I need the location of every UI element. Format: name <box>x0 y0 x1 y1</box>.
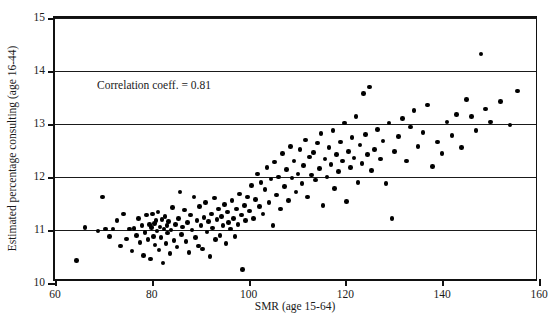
data-point <box>226 220 231 225</box>
data-point <box>474 128 479 133</box>
data-point <box>169 228 174 233</box>
data-point <box>190 228 195 233</box>
gridline-y-14 <box>55 71 536 72</box>
data-point <box>239 213 244 218</box>
data-point <box>206 219 211 224</box>
data-point <box>156 210 161 215</box>
data-point <box>216 207 221 212</box>
data-point <box>255 172 260 177</box>
data-point <box>390 216 395 221</box>
correlation-annotation: Correlation coeff. = 0.81 <box>97 78 211 92</box>
data-point <box>338 140 343 145</box>
gridline-y-12 <box>55 177 536 178</box>
y-axis-label: Estimated percentage consulting (age 16-… <box>4 16 20 281</box>
data-point <box>435 140 440 145</box>
data-point <box>317 166 322 171</box>
data-point <box>263 187 268 192</box>
data-point <box>294 190 299 195</box>
data-point <box>259 180 264 185</box>
data-point <box>271 223 276 228</box>
data-point <box>83 225 88 230</box>
data-point <box>236 222 241 227</box>
data-point <box>192 195 197 200</box>
data-point <box>372 147 377 152</box>
data-point <box>247 209 252 214</box>
data-point <box>309 173 314 178</box>
data-point <box>153 243 158 248</box>
data-point <box>286 198 291 203</box>
data-point <box>245 195 250 200</box>
y-tick-mark-13 <box>48 124 55 126</box>
data-point <box>143 230 148 235</box>
data-point <box>103 227 108 232</box>
data-point <box>168 251 173 256</box>
data-point <box>392 149 397 154</box>
data-point <box>367 85 372 90</box>
data-point <box>307 155 312 160</box>
data-point <box>200 247 205 252</box>
data-point <box>163 214 168 219</box>
data-point <box>298 147 303 152</box>
data-point <box>381 139 386 144</box>
data-point <box>222 202 227 207</box>
data-point <box>243 218 248 223</box>
data-point <box>265 165 270 170</box>
data-point <box>146 237 151 242</box>
data-point <box>498 99 503 104</box>
data-point <box>154 218 159 223</box>
data-point <box>282 184 287 189</box>
x-tick-mark-160 <box>539 279 541 286</box>
data-point <box>179 232 184 237</box>
data-point <box>234 207 239 212</box>
data-point <box>121 212 126 217</box>
data-point <box>253 197 258 202</box>
data-point <box>242 203 247 208</box>
data-point <box>187 250 192 255</box>
data-point <box>175 245 180 250</box>
data-point <box>404 159 409 164</box>
data-point <box>193 235 198 240</box>
data-point <box>327 145 332 150</box>
data-point <box>336 169 341 174</box>
data-point <box>141 253 146 258</box>
data-point <box>115 218 120 223</box>
data-point <box>205 230 210 235</box>
data-point <box>358 143 363 148</box>
data-point <box>300 181 305 186</box>
y-tick-mark-10 <box>48 283 55 285</box>
data-point <box>469 114 474 119</box>
data-point <box>107 234 112 239</box>
data-point <box>274 193 279 198</box>
data-point <box>305 195 310 200</box>
y-tick-label-14: 14 <box>34 65 46 77</box>
data-point <box>290 176 295 181</box>
data-point <box>249 183 254 188</box>
data-point <box>334 152 339 157</box>
data-point <box>218 233 223 238</box>
data-point <box>212 196 217 201</box>
y-tick-label-13: 13 <box>34 118 46 130</box>
data-point <box>165 223 170 228</box>
data-point <box>170 205 175 210</box>
data-point <box>269 177 274 182</box>
plot-area: 101112131415 6080100120140160 <box>53 16 537 281</box>
data-point <box>180 225 185 230</box>
data-point <box>459 145 464 150</box>
data-point <box>361 91 366 96</box>
data-point <box>375 127 380 132</box>
data-point <box>408 125 413 130</box>
data-point <box>301 163 306 168</box>
data-point <box>323 157 328 162</box>
data-point <box>213 237 218 242</box>
data-point <box>363 132 368 137</box>
data-point <box>251 216 256 221</box>
y-tick-mark-14 <box>48 71 55 73</box>
y-tick-label-15: 15 <box>34 12 46 24</box>
gridline-y-13 <box>55 124 536 125</box>
x-axis-label: SMR (age 15-64) <box>53 299 537 313</box>
data-point <box>412 108 417 113</box>
data-point <box>284 167 289 172</box>
data-point <box>315 141 320 146</box>
data-point <box>329 162 334 167</box>
y-tick-mark-11 <box>48 230 55 232</box>
